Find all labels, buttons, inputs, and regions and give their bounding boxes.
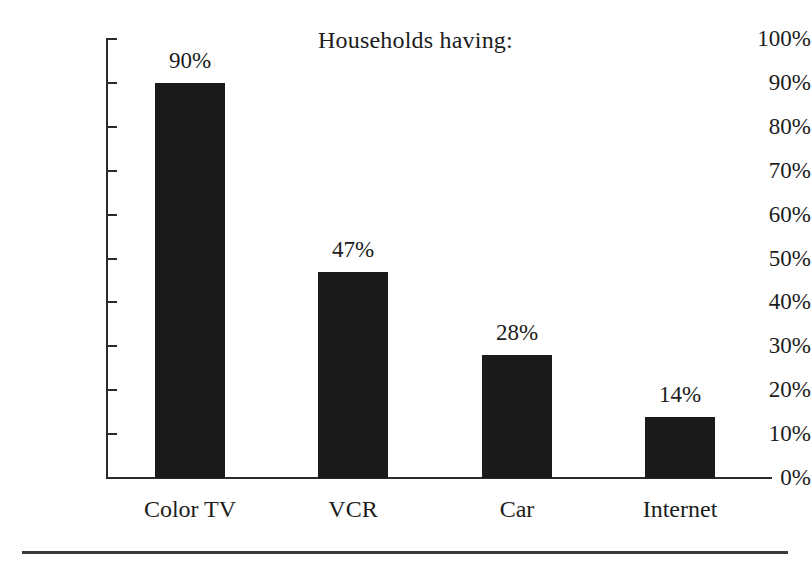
bar	[155, 83, 225, 478]
bar-value-label: 14%	[659, 382, 701, 408]
bar-value-label: 47%	[332, 237, 374, 263]
y-axis-tick	[106, 126, 117, 128]
y-axis-tick-label: 10%	[723, 421, 811, 447]
y-axis-tick-label: 0%	[723, 465, 811, 491]
y-axis-tick-label: 90%	[723, 70, 811, 96]
bar-value-label: 28%	[496, 320, 538, 346]
y-axis-tick-label: 60%	[723, 202, 811, 228]
y-axis-tick	[106, 301, 117, 303]
y-axis-tick-label: 70%	[723, 158, 811, 184]
x-axis-category-label: VCR	[328, 496, 377, 523]
y-axis-tick	[106, 345, 117, 347]
y-axis-tick	[106, 170, 117, 172]
y-axis-tick	[106, 258, 117, 260]
bar	[645, 417, 715, 478]
y-axis-tick-label: 40%	[723, 289, 811, 315]
bar-value-label: 90%	[169, 48, 211, 74]
y-axis-tick	[106, 38, 117, 40]
y-axis-tick	[106, 82, 117, 84]
bar	[482, 355, 552, 478]
x-axis-category-label: Car	[500, 496, 535, 523]
y-axis-tick	[106, 433, 117, 435]
x-axis-category-label: Internet	[643, 496, 718, 523]
chart-title: Households having:	[318, 27, 513, 54]
y-axis-tick	[106, 214, 117, 216]
footer-divider	[22, 551, 788, 554]
y-axis-tick-label: 80%	[723, 114, 811, 140]
y-axis-tick-label: 50%	[723, 246, 811, 272]
y-axis-tick	[106, 477, 117, 479]
x-axis-category-label: Color TV	[144, 496, 236, 523]
bar	[318, 272, 388, 478]
y-axis-tick-label: 100%	[723, 26, 811, 52]
y-axis-tick-label: 30%	[723, 333, 811, 359]
y-axis-tick	[106, 389, 117, 391]
y-axis-tick-label: 20%	[723, 377, 811, 403]
bar-chart-figure: Households having: 0%10%20%30%40%50%60%7…	[0, 0, 811, 566]
